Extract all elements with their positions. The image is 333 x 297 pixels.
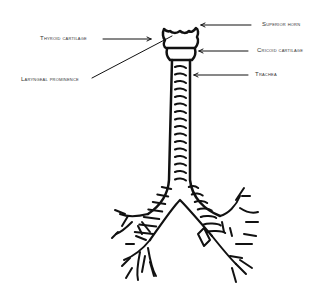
label-thyroid-cartilage: Thyroid cartilage [40, 35, 87, 41]
label-cricoid-cartilage: Cricoid cartilage [257, 47, 303, 53]
trachea-left-wall [148, 60, 172, 214]
label-trachea: Trachea [255, 71, 277, 77]
trachea-ring [175, 178, 186, 180]
trachea-ring [175, 103, 186, 105]
trachea-ring [175, 96, 186, 98]
trachea-ring [175, 133, 186, 135]
trachea-ring [175, 73, 186, 75]
label-laryngeal-prominence: Laryngeal prominence [21, 76, 79, 82]
bronchus-ring [162, 187, 171, 189]
bronchus-ring [144, 217, 159, 219]
left-bronchial-tree [112, 210, 156, 280]
line-laryngeal-prominence [92, 36, 172, 78]
label-superior-horn: Superior horn [262, 21, 300, 27]
trachea-ring [175, 171, 186, 173]
trachea-ring [175, 156, 186, 158]
trachea-ring [175, 163, 186, 165]
trachea-right-wall [190, 60, 220, 216]
trachea-ring [175, 111, 186, 113]
trachea-ring [189, 186, 198, 188]
trachea-ring [175, 66, 186, 68]
trachea-ring [175, 81, 186, 83]
trachea-ring [175, 88, 186, 90]
trachea-ring [175, 141, 186, 143]
trachea-ring [204, 223, 221, 225]
trachea-ring [201, 216, 216, 218]
trachea-ring [175, 118, 186, 120]
bronchus-ring [153, 202, 165, 204]
trachea-ring [175, 126, 186, 128]
trachea-rings [135, 66, 225, 234]
trachea-diagram [0, 0, 333, 297]
bronchus-ring [139, 225, 156, 227]
trachea-ring [198, 208, 212, 210]
trachea-ring [175, 148, 186, 150]
cricoid-cartilage-shape [167, 49, 196, 60]
